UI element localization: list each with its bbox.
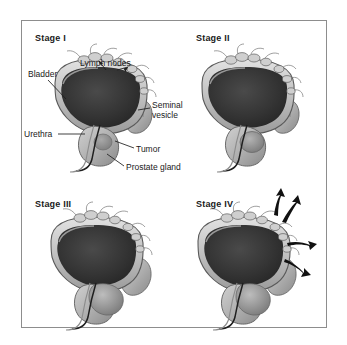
- metastasis-arrow-up-left: [274, 188, 285, 216]
- panel-stage-4: Stage IV: [175, 175, 326, 329]
- prostate-staging-figure: Stage I: [0, 0, 347, 345]
- anatomy-illustration-stage-3: [22, 187, 175, 329]
- metastasis-arrow-up: [282, 195, 301, 223]
- anatomy-illustration-stage-4: [175, 187, 326, 329]
- leader-tumor: [115, 141, 134, 148]
- panel-stage-2: Stage II: [175, 21, 326, 175]
- anatomy-illustration-stage-2: [175, 21, 326, 175]
- leader-seminal: [138, 108, 150, 110]
- figure-frame: Stage I: [21, 20, 327, 328]
- panel-stage-1: Stage I: [22, 21, 175, 175]
- panel-stage-3: Stage III: [22, 175, 175, 329]
- leader-bladder: [48, 80, 66, 99]
- callout-leader-lines: [22, 21, 175, 175]
- leader-prostate: [107, 154, 124, 166]
